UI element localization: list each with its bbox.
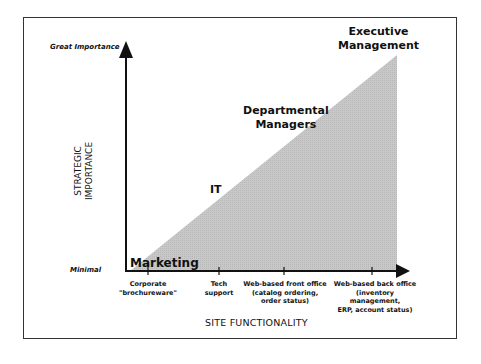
region-line: Management	[338, 39, 419, 53]
y-axis-arrow-icon	[119, 41, 133, 58]
y-axis-title-line1: STRATEGIC	[73, 126, 84, 216]
region-marketing: Marketing	[130, 256, 199, 270]
x-tick-label-tech-support: Tech support	[194, 280, 244, 297]
x-tick-label-brochureware: Corporate "brochureware"	[113, 280, 183, 297]
y-axis-title-line2: IMPORTANCE	[84, 126, 95, 216]
region-line: Departmental	[243, 104, 329, 118]
tick-line: Tech	[194, 280, 244, 289]
region-line: Executive	[338, 25, 419, 39]
importance-triangle	[130, 55, 397, 271]
y-axis-title: STRATEGIC IMPORTANCE	[73, 126, 95, 216]
region-line: IT	[210, 183, 222, 197]
region-it: IT	[210, 183, 222, 197]
tick-line: Web-based front office	[240, 280, 330, 289]
tick-line: (catalog ordering,	[240, 289, 330, 298]
x-axis-title: SITE FUNCTIONALITY	[205, 317, 308, 328]
region-departmental-managers: Departmental Managers	[243, 104, 329, 132]
tick-line: support	[194, 289, 244, 298]
y-axis-bottom-label: Minimal	[70, 266, 101, 274]
tick-line: "brochureware"	[113, 289, 183, 298]
x-tick-label-front-office: Web-based front office (catalog ordering…	[240, 280, 330, 306]
y-axis-top-label: Great Importance	[50, 43, 120, 51]
tick-line: ERP, account status)	[330, 306, 420, 315]
x-axis-arrow-icon	[396, 264, 410, 278]
tick-line: order status)	[240, 297, 330, 306]
tick-line: (inventory management,	[330, 289, 420, 306]
region-line: Marketing	[130, 256, 199, 270]
region-executive-management: Executive Management	[338, 25, 419, 53]
tick-line: Corporate	[113, 280, 183, 289]
x-tick-label-back-office: Web-based back office (inventory managem…	[330, 280, 420, 314]
region-line: Managers	[243, 118, 329, 132]
tick-line: Web-based back office	[330, 280, 420, 289]
